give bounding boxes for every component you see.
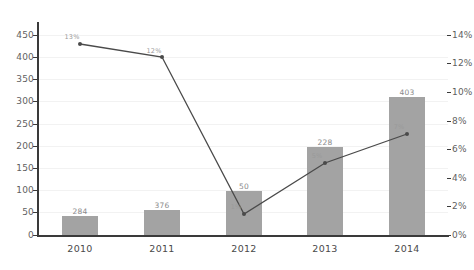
percent-point-2012[interactable] xyxy=(242,212,246,216)
percent-line-path xyxy=(80,44,407,214)
percent-point-2013[interactable] xyxy=(323,161,327,165)
combo-chart: 450 400 350 300 250 200 150 100 50 0 14%… xyxy=(0,0,474,270)
x-axis-label-2013: 2013 xyxy=(290,243,360,254)
percent-label-2014: 7% xyxy=(381,123,417,131)
percent-point-2011[interactable] xyxy=(160,55,164,59)
percent-point-2010[interactable] xyxy=(78,42,82,46)
x-axis-label-2014: 2014 xyxy=(372,243,442,254)
percent-label-2010: 13% xyxy=(54,33,90,41)
percent-label-2012: 1% xyxy=(218,203,254,211)
x-axis-label-2011: 2011 xyxy=(127,243,197,254)
percent-label-2011: 12% xyxy=(136,47,172,55)
x-axis-label-2012: 2012 xyxy=(209,243,279,254)
x-axis-label-2010: 2010 xyxy=(45,243,115,254)
percent-label-2013: 5% xyxy=(299,152,335,160)
percent-point-2014[interactable] xyxy=(405,132,409,136)
